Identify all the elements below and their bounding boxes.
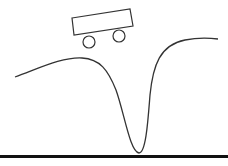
car-wheel-front — [83, 36, 95, 48]
game-canvas — [0, 0, 228, 166]
ground-line — [0, 155, 228, 158]
car-wheel-rear — [113, 30, 125, 42]
